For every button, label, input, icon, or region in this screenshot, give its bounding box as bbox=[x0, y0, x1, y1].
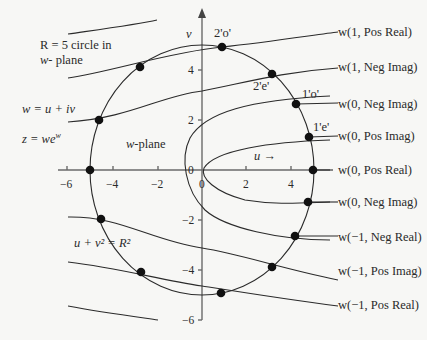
v-tick-label: −6 bbox=[182, 314, 194, 326]
u-tick-labels: −6 −4 −2 0 2 4 bbox=[60, 178, 294, 190]
branch-label: w(1, Pos Real) bbox=[338, 25, 412, 39]
point-left-3 bbox=[86, 166, 95, 175]
point-left-5 bbox=[137, 268, 146, 277]
branch-label: w(1, Neg Imag) bbox=[338, 60, 418, 74]
v-tick-label: −4 bbox=[182, 264, 194, 276]
v-tick-label: 2 bbox=[188, 114, 194, 126]
point-neg-imag bbox=[304, 198, 313, 207]
equation-w: w = u + iv bbox=[22, 102, 75, 116]
point-m1-pos-imag bbox=[268, 263, 277, 272]
curve-w0-pos-imag bbox=[309, 136, 338, 137]
point-m1-neg-real bbox=[291, 232, 300, 241]
v-tick-label: 4 bbox=[188, 64, 194, 76]
curve-top-left bbox=[68, 20, 157, 34]
circle-equation: u + v² = R² bbox=[74, 236, 131, 250]
label-1e: 1'e' bbox=[313, 120, 329, 134]
v-axis-arrow-icon bbox=[198, 8, 206, 18]
point-1o bbox=[292, 100, 301, 109]
point-pos-real bbox=[309, 166, 318, 175]
circle-note-line2: w- plane bbox=[40, 53, 83, 67]
label-1o: 1'o' bbox=[302, 87, 319, 101]
point-left-1 bbox=[136, 63, 145, 72]
branch-label: w(0, Pos Real) bbox=[338, 163, 412, 177]
point-2o bbox=[218, 43, 227, 52]
branch-label: w(−1, Pos Imag) bbox=[338, 264, 422, 278]
v-axis-label: v bbox=[186, 27, 192, 41]
point-m1-pos-real bbox=[217, 289, 226, 298]
branch-label: w(0, Neg Imag) bbox=[338, 195, 418, 209]
lambert-w-diagram: −6 −4 −2 0 2 4 4 2 0 −2 −4 −6 v bbox=[0, 0, 427, 340]
v-tick-label: 0 bbox=[188, 164, 194, 176]
point-left-4 bbox=[97, 215, 106, 224]
point-2e bbox=[268, 70, 277, 79]
point-1e bbox=[305, 133, 314, 142]
point-left-2 bbox=[95, 116, 104, 125]
label-2o: 2'o' bbox=[214, 26, 231, 40]
branch-labels: w(1, Pos Real) w(1, Neg Imag) w(0, Neg I… bbox=[338, 25, 422, 312]
curve-bottom-left bbox=[68, 306, 158, 320]
curve-w0-neg-imag bbox=[296, 103, 338, 104]
branch-curve-outer bbox=[185, 96, 330, 240]
v-tick-label: −2 bbox=[182, 214, 194, 226]
u-tick-label: 0 bbox=[199, 178, 205, 190]
equation-z: z = wew bbox=[21, 131, 61, 146]
curve-w1-neg-imag bbox=[68, 68, 338, 122]
curve-wm1-pos-real bbox=[68, 262, 338, 306]
diagram-canvas: −6 −4 −2 0 2 4 4 2 0 −2 −4 −6 v bbox=[0, 0, 427, 340]
u-direction-label: u → bbox=[254, 149, 276, 163]
branch-label: w(0, Neg Imag) bbox=[338, 97, 418, 111]
u-tick-label: 4 bbox=[288, 178, 294, 190]
u-tick-label: 2 bbox=[243, 178, 249, 190]
branch-label: w(0, Pos Imag) bbox=[338, 129, 415, 143]
plane-label: w-plane bbox=[126, 137, 166, 151]
branch-label: w(−1, Neg Real) bbox=[338, 230, 422, 244]
u-tick-label: −6 bbox=[60, 178, 72, 190]
u-tick-label: −2 bbox=[151, 178, 163, 190]
v-tick-labels: 4 2 0 −2 −4 −6 bbox=[182, 64, 194, 326]
branch-label: w(−1, Pos Real) bbox=[338, 298, 419, 312]
label-2e: 2'e' bbox=[253, 79, 269, 93]
u-tick-label: −4 bbox=[106, 178, 118, 190]
circle-note-line1: R = 5 circle in bbox=[40, 38, 112, 52]
